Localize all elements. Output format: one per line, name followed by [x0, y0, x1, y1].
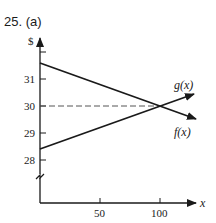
- series-f-label: f(x): [174, 125, 191, 139]
- y-tick-30: 30: [24, 100, 36, 112]
- x-axis-label: x: [199, 196, 206, 210]
- y-tick-28: 28: [24, 154, 36, 166]
- series-g-line: [40, 94, 194, 149]
- series-g-label: g(x): [174, 78, 193, 92]
- y-tick-31: 31: [24, 73, 35, 85]
- chart: $ 31 30 29 28 50 100 x g(x) f(x): [0, 0, 216, 223]
- x-tick-100: 100: [151, 207, 168, 219]
- x-axis: [40, 198, 196, 203]
- x-tick-50: 50: [94, 207, 106, 219]
- series-f-line: [40, 63, 196, 119]
- axis-break-icon: [36, 174, 44, 179]
- y-tick-29: 29: [24, 127, 36, 139]
- y-axis-label: $: [28, 35, 34, 47]
